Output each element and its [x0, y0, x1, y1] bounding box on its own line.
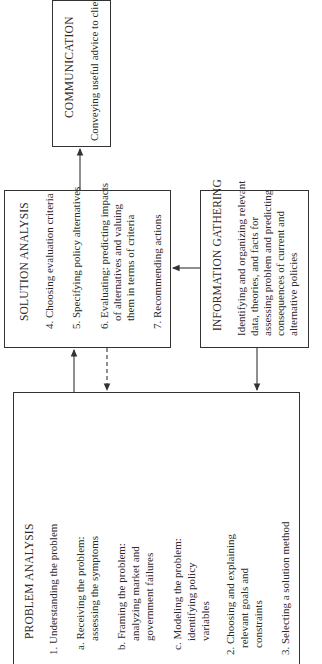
problem-analysis-box: PROBLEM ANALYSIS 1. Understanding the pr…: [13, 392, 300, 664]
problem-item-3: 3. Selecting a solution method: [279, 521, 292, 655]
problem-item-1c-line3: variables: [199, 601, 212, 641]
solution-analysis-box: SOLUTION ANALYSIS 4. Choosing evaluation…: [4, 190, 171, 348]
info-line-3: assessing problem and predicting: [261, 190, 274, 336]
information-gathering-box: INFORMATION GATHERING Identifying and or…: [200, 190, 309, 348]
information-gathering-title: INFORMATION GATHERING: [211, 179, 223, 331]
problem-item-1c-line2: identifying policy: [185, 562, 198, 641]
solution-analysis-title: SOLUTION ANALYSIS: [18, 202, 30, 321]
problem-item-1b-line2: analyzing market and: [129, 546, 142, 641]
problem-item-1b-line3: government failures: [143, 553, 156, 641]
problem-item-1c: c. Modeling the problem:: [171, 538, 184, 650]
problem-item-1b: b. Framing the problem:: [115, 543, 128, 650]
solution-item-6: 6. Evaluating: predicting impacts: [98, 183, 111, 329]
solution-item-7: 7. Recommending actions: [151, 214, 164, 329]
problem-item-2-line3: constraints: [252, 600, 265, 648]
communication-text: Conveying useful advice to clients: [88, 0, 101, 141]
problem-item-1: 1. Understanding the problem: [47, 524, 60, 655]
problem-analysis-title: PROBLEM ANALYSIS: [23, 524, 35, 639]
problem-item-1a-line2: assessing the symptoms: [88, 536, 101, 641]
solution-item-4: 4. Choosing evaluation criteria: [43, 193, 56, 329]
info-line-4: consequences of current and: [274, 211, 287, 336]
solution-item-5: 5. Specifying policy alternatives: [70, 187, 83, 329]
problem-item-2: 2. Choosing and explaining: [224, 534, 237, 655]
solution-item-6-line2: of alternatives and valuing: [111, 204, 124, 321]
problem-item-2-line2: relevant goals and: [238, 568, 251, 648]
communication-title: COMMUNICATION: [63, 16, 75, 118]
solution-item-6-line3: them in terms of criteria: [124, 215, 137, 321]
info-line-5: alternative policies: [287, 253, 300, 336]
info-line-1: Identifying and organizing relevant: [235, 181, 248, 336]
problem-item-1a: a. Receiving the problem:: [74, 536, 87, 650]
communication-box: COMMUNICATION Conveying useful advice to…: [52, 0, 111, 147]
info-line-2: data, theories, and facts for: [248, 217, 261, 336]
